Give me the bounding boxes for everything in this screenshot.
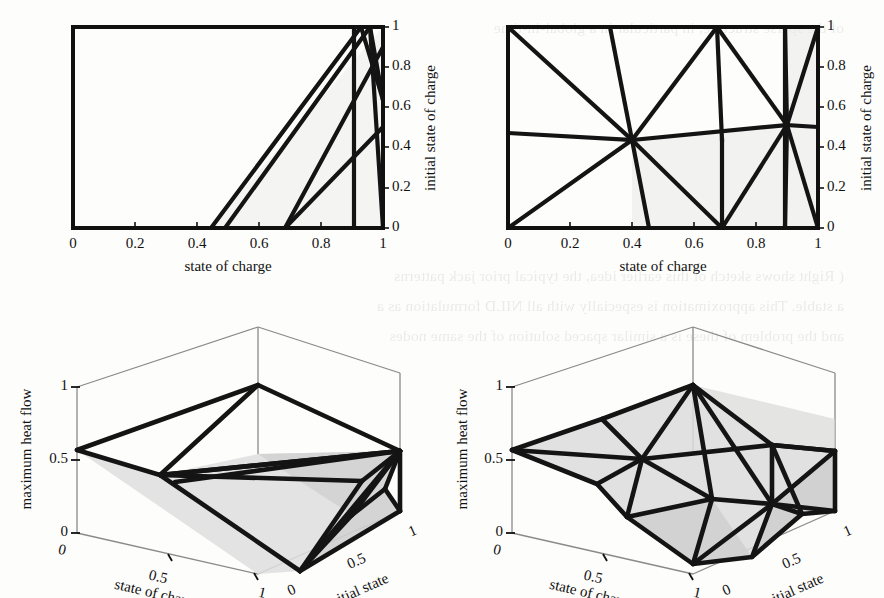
panel-bottom-right: 0 0.5 1 maximum heat flow 0 0.5 1 state … [442,299,884,598]
x-axis-tick-labels: 0 0.2 0.4 0.6 0.8 1 [504,235,822,251]
depth-tick-label: 0 [720,581,733,598]
x-tick-label: 0 [57,541,68,558]
z-axis-tick-labels: 0 0.5 1 [49,377,68,539]
y-tick-label: 0.2 [827,178,846,194]
panel-bottom-right-svg: 0 0.5 1 maximum heat flow 0 0.5 1 state … [442,299,884,598]
y-axis-tick-labels: 0 0.2 0.4 0.6 0.8 1 [827,17,846,234]
z-axis-title: maximum heat flow [18,388,34,509]
z-tick-label: 0 [61,523,69,539]
z-axis-ticks [506,387,515,533]
x-axis-ticks [603,554,693,580]
x-tick-label: 0 [504,235,512,251]
y-tick-label: 0.6 [392,97,411,113]
z-axis-ticks [71,387,80,533]
mesh-shading [508,125,818,228]
z-tick-label: 0.5 [484,450,503,466]
z-tick-label: 0 [496,523,504,539]
z-tick-label: 1 [496,377,504,393]
depth-axis-title-line1: initial state [324,570,391,598]
panel-bottom-left: 0 0.5 1 maximum heat flow 0 0.5 1 state … [0,299,442,598]
z-tick-label: 0.5 [49,450,68,466]
z-axis-title: maximum heat flow [454,388,470,509]
x-tick-label: 1 [257,584,268,598]
z-tick-label: 1 [61,377,69,393]
y-tick-label: 1 [827,17,835,33]
y-tick-label: 1 [392,17,400,33]
figure-root: of the sparse structure, in particular i… [0,0,884,598]
depth-tick-label: 0.5 [780,549,804,571]
x-tick-label: 1 [814,235,822,251]
y-tick-label: 0 [392,218,400,234]
y-tick-label: 0 [827,218,835,234]
depth-tick-label: 0.5 [345,549,369,571]
y-tick-label: 0.4 [392,137,411,153]
x-tick-label: 0.6 [685,235,704,251]
x-axis-title: state of charge [184,258,272,274]
y-tick-label: 0.4 [827,137,846,153]
panel-bottom-left-svg: 0 0.5 1 maximum heat flow 0 0.5 1 state … [0,299,442,598]
depth-tick-label: 1 [841,522,854,540]
depth-tick-label: 1 [406,522,419,540]
y-tick-label: 0.6 [827,97,846,113]
y-axis-tick-labels: 0 0.2 0.4 0.6 0.8 1 [392,17,411,234]
x-tick-label: 0.8 [747,235,766,251]
y-tick-label: 0.2 [392,178,411,194]
x-tick-label: 0.4 [188,235,207,251]
y-tick-label: 0.8 [827,57,846,73]
panel-top-right-svg: 0 0.2 0.4 0.6 0.8 1 state of charge 0 0.… [442,0,884,299]
panel-top-right: 0 0.2 0.4 0.6 0.8 1 state of charge 0 0.… [442,0,884,299]
x-tick-label: 0.6 [250,235,269,251]
mesh-edges-top-right [508,27,818,228]
x-tick-label: 0 [492,541,503,558]
x-tick-label: 0 [69,235,77,251]
x-axis-tick-labels: 0 0.2 0.4 0.6 0.8 1 [69,235,387,251]
panel-top-left: 0 0.2 0.4 0.6 0.8 1 state of charge 0 0.… [0,0,442,299]
x-tick-label: 0.2 [126,235,145,251]
mesh-edges-top-left [210,27,383,228]
x-tick-label: 0.4 [623,235,642,251]
x-tick-label: 1 [379,235,387,251]
x-tick-label: 1 [692,584,703,598]
y-tick-label: 0.8 [392,57,411,73]
y-axis-title: initial state of charge [422,65,438,191]
depth-tick-label: 0 [285,581,298,598]
z-axis-tick-labels: 0 0.5 1 [484,377,503,539]
x-axis-title: state of charge [619,258,707,274]
x-tick-label: 0.8 [312,235,331,251]
panel-top-left-svg: 0 0.2 0.4 0.6 0.8 1 state of charge 0 0.… [0,0,442,299]
x-tick-label: 0.2 [561,235,580,251]
depth-axis-title-line1: initial state [759,570,826,598]
y-axis-title: initial state of charge [858,65,874,191]
